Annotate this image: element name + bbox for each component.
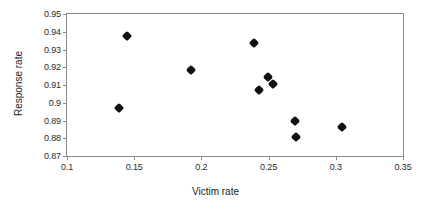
y-axis-tick bbox=[63, 14, 67, 15]
y-axis-tick-label: 0.88 bbox=[44, 133, 61, 143]
y-axis-tick bbox=[63, 138, 67, 139]
data-point bbox=[187, 66, 195, 74]
data-point bbox=[114, 104, 122, 112]
data-point bbox=[291, 116, 299, 124]
data-point bbox=[250, 38, 258, 46]
y-axis-tick-label: 0.9 bbox=[49, 98, 61, 108]
x-axis-tick-label: 0.2 bbox=[195, 162, 207, 172]
data-point bbox=[255, 86, 263, 94]
y-axis-tick-label: 0.89 bbox=[44, 116, 61, 126]
y-axis-tick bbox=[63, 67, 67, 68]
x-axis-tick bbox=[134, 156, 135, 160]
y-axis-tick-label: 0.93 bbox=[44, 45, 61, 55]
y-axis-tick bbox=[63, 103, 67, 104]
plot-area: 0.950.940.930.920.910.90.890.880.870.10.… bbox=[66, 13, 404, 157]
data-point bbox=[337, 123, 345, 131]
y-axis-tick-label: 0.91 bbox=[44, 80, 61, 90]
data-point bbox=[292, 133, 300, 141]
y-axis-tick-label: 0.92 bbox=[44, 62, 61, 72]
x-axis-tick-label: 0.3 bbox=[330, 162, 342, 172]
y-axis-tick bbox=[63, 50, 67, 51]
y-axis-tick bbox=[63, 32, 67, 33]
y-axis-title: Response rate bbox=[13, 19, 24, 149]
x-axis-tick-label: 0.25 bbox=[260, 162, 277, 172]
x-axis-tick bbox=[201, 156, 202, 160]
data-point bbox=[269, 80, 277, 88]
x-axis-tick-label: 0.35 bbox=[394, 162, 411, 172]
y-axis-tick bbox=[63, 121, 67, 122]
x-axis-tick bbox=[67, 156, 68, 160]
y-axis-tick-label: 0.95 bbox=[44, 9, 61, 19]
scatter-chart-figure: 0.950.940.930.920.910.90.890.880.870.10.… bbox=[0, 0, 431, 203]
x-axis-title: Victim rate bbox=[0, 186, 431, 197]
x-axis-tick bbox=[269, 156, 270, 160]
y-axis-tick-label: 0.87 bbox=[44, 151, 61, 161]
x-axis-tick-label: 0.1 bbox=[61, 162, 73, 172]
data-point bbox=[123, 32, 131, 40]
x-axis-tick bbox=[403, 156, 404, 160]
y-axis-tick-label: 0.94 bbox=[44, 27, 61, 37]
y-axis-tick bbox=[63, 85, 67, 86]
x-axis-tick bbox=[336, 156, 337, 160]
x-axis-tick-label: 0.15 bbox=[126, 162, 143, 172]
